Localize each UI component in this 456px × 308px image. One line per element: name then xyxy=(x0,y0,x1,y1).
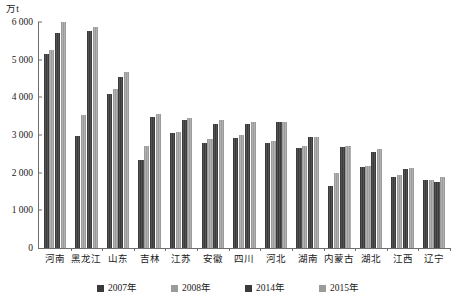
bar xyxy=(49,50,54,248)
bar-chart-figure: 万t 01 0002 0003 0004 0005 0006 000 河南黑龙江… xyxy=(0,0,456,308)
y-tick-label: 0 xyxy=(28,243,38,253)
bar xyxy=(150,117,155,248)
bar xyxy=(440,177,445,248)
x-tick-label: 江苏 xyxy=(165,252,197,270)
bar-group xyxy=(165,22,197,248)
x-tick-label: 江西 xyxy=(387,252,419,270)
x-axis-labels: 河南黑龙江山东吉林江苏安徽四川河北湖南内蒙古湖北江西辽宁 xyxy=(39,252,450,270)
x-tick-mark xyxy=(71,248,72,251)
bar xyxy=(302,146,307,248)
x-tick-label: 山东 xyxy=(102,252,134,270)
x-tick-label: 辽宁 xyxy=(418,252,450,270)
x-tick-label: 河南 xyxy=(39,252,71,270)
x-tick-label: 四川 xyxy=(229,252,261,270)
bar xyxy=(276,122,281,248)
bar xyxy=(202,143,207,248)
bar-group xyxy=(418,22,450,248)
x-tick-mark xyxy=(197,248,198,251)
bar xyxy=(207,139,212,248)
x-tick-mark xyxy=(450,248,451,251)
bar xyxy=(334,173,339,248)
x-tick-mark xyxy=(292,248,293,251)
y-tick-label: 1 000 xyxy=(12,205,38,215)
bar xyxy=(251,122,256,248)
bar xyxy=(113,89,118,248)
legend-label: 2015年 xyxy=(330,283,359,294)
bar xyxy=(403,169,408,248)
legend-item[interactable]: 2014年 xyxy=(245,283,285,294)
y-tick-label: 6 000 xyxy=(12,17,38,27)
bar xyxy=(187,118,192,248)
bar-group xyxy=(102,22,134,248)
bar xyxy=(239,135,244,248)
bar xyxy=(391,177,396,248)
legend-label: 2008年 xyxy=(182,283,211,294)
bar-group xyxy=(260,22,292,248)
y-tick-label: 2 000 xyxy=(12,168,38,178)
y-axis-unit-label: 万t xyxy=(6,4,19,15)
bar xyxy=(409,168,414,248)
x-tick-label: 河北 xyxy=(260,252,292,270)
x-tick-label: 湖北 xyxy=(355,252,387,270)
bar xyxy=(328,186,333,248)
x-axis-line xyxy=(38,248,450,249)
bar xyxy=(282,122,287,248)
bar-group xyxy=(323,22,355,248)
bar xyxy=(296,148,301,248)
bar-group xyxy=(71,22,103,248)
bar xyxy=(340,147,345,248)
bar xyxy=(423,180,428,248)
x-tick-mark xyxy=(387,248,388,251)
bar xyxy=(233,138,238,248)
bar xyxy=(61,22,66,248)
bar xyxy=(156,114,161,248)
bar-group xyxy=(229,22,261,248)
bar xyxy=(371,152,376,248)
bar xyxy=(434,182,439,248)
x-tick-label: 内蒙古 xyxy=(323,252,355,270)
bar xyxy=(170,133,175,248)
bar xyxy=(176,132,181,248)
bar xyxy=(265,143,270,248)
bar xyxy=(124,72,129,248)
bar xyxy=(144,146,149,248)
bar xyxy=(314,137,319,248)
bar xyxy=(182,120,187,248)
legend-swatch-icon xyxy=(171,285,178,292)
bar xyxy=(365,166,370,248)
bar-group xyxy=(355,22,387,248)
bar xyxy=(81,115,86,248)
x-tick-mark xyxy=(102,248,103,251)
bar xyxy=(219,120,224,248)
legend-item[interactable]: 2008年 xyxy=(171,283,211,294)
x-tick-mark xyxy=(324,248,325,251)
x-tick-label: 安徽 xyxy=(197,252,229,270)
legend-label: 2007年 xyxy=(108,283,137,294)
bar xyxy=(345,146,350,248)
bar xyxy=(397,175,402,248)
x-tick-mark xyxy=(260,248,261,251)
y-tick-label: 5 000 xyxy=(12,55,38,65)
x-tick-label: 黑龙江 xyxy=(71,252,103,270)
x-tick-mark xyxy=(229,248,230,251)
bar xyxy=(429,180,434,248)
chart-legend: 2007年2008年2014年2015年 xyxy=(0,283,456,294)
bar xyxy=(138,160,143,248)
bar xyxy=(377,149,382,248)
bar xyxy=(93,27,98,248)
bar xyxy=(271,141,276,248)
legend-item[interactable]: 2015年 xyxy=(319,283,359,294)
legend-item[interactable]: 2007年 xyxy=(97,283,137,294)
x-tick-mark xyxy=(165,248,166,251)
bar xyxy=(213,124,218,248)
x-tick-mark xyxy=(134,248,135,251)
legend-swatch-icon xyxy=(245,285,252,292)
bar xyxy=(107,94,112,248)
bar-group xyxy=(387,22,419,248)
bar-group xyxy=(134,22,166,248)
bar xyxy=(118,77,123,248)
y-tick-label: 4 000 xyxy=(12,92,38,102)
x-tick-label: 吉林 xyxy=(134,252,166,270)
bar xyxy=(75,136,80,248)
bar-group xyxy=(292,22,324,248)
